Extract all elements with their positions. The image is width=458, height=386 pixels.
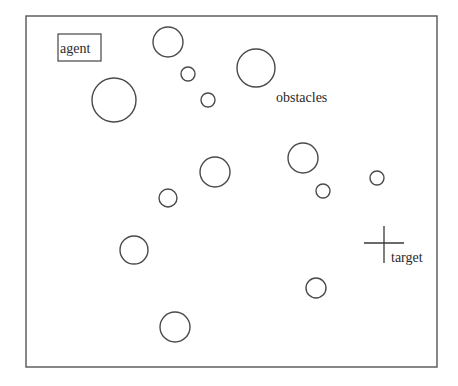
obstacle-circle <box>160 312 190 342</box>
obstacle-circle <box>201 93 215 107</box>
environment-diagram: agent obstacles target <box>0 0 458 386</box>
obstacle-circle <box>306 278 326 298</box>
obstacle-circle <box>159 189 177 207</box>
obstacle-circle <box>120 236 148 264</box>
obstacles-label: obstacles <box>276 90 327 105</box>
obstacle-circle <box>288 143 318 173</box>
obstacle-circle <box>237 49 275 87</box>
obstacle-circle <box>316 184 330 198</box>
agent-marker: agent <box>58 34 101 61</box>
environment-frame <box>26 16 437 367</box>
obstacle-circle <box>92 78 136 122</box>
target-marker: target <box>364 226 423 265</box>
obstacle-circle <box>153 27 183 57</box>
obstacle-circle <box>370 171 384 185</box>
obstacle-circle <box>181 67 195 81</box>
target-label: target <box>391 250 423 265</box>
agent-label: agent <box>60 41 90 56</box>
obstacle-group <box>92 27 384 342</box>
obstacle-circle <box>200 157 230 187</box>
